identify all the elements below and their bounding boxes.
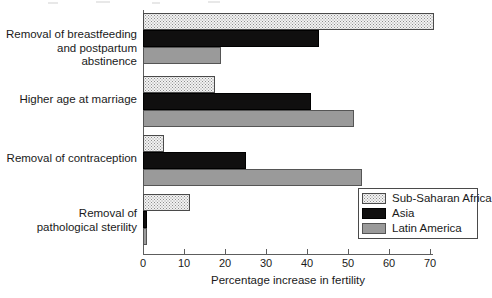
category-label-contraception: Removal of contraception — [0, 152, 137, 166]
x-tick-0 — [143, 249, 144, 255]
legend-label-latin-america: Latin America — [392, 222, 462, 235]
chart-legend: Sub-Saharan Africa Asia Latin America — [358, 188, 478, 239]
legend-item-sub-saharan-africa: Sub-Saharan Africa — [359, 191, 477, 206]
bar-age-at-marriage-asia — [143, 93, 311, 110]
bar-contraception-latin-america — [143, 169, 362, 186]
x-tick-label-60: 60 — [383, 257, 395, 269]
bar-age-at-marriage-latin-america — [143, 110, 354, 127]
legend-item-asia: Asia — [359, 206, 477, 221]
legend-swatch-icon-sub-saharan-africa — [362, 193, 386, 204]
bar-contraception-asia — [143, 152, 246, 169]
legend-swatch-icon-asia — [362, 208, 386, 219]
x-tick-60 — [389, 249, 390, 255]
x-tick-label-70: 70 — [424, 257, 436, 269]
x-tick-label-40: 40 — [301, 257, 313, 269]
x-tick-30 — [266, 249, 267, 255]
category-label-pathological-sterility: Removal of pathological sterility — [0, 207, 137, 234]
x-axis-title: Percentage increase in fertility — [143, 274, 433, 286]
bar-pathological-sterility-asia — [143, 211, 147, 228]
x-tick-label-20: 20 — [219, 257, 231, 269]
bar-pathological-sterility-sub-saharan-africa — [143, 194, 190, 211]
x-tick-label-50: 50 — [342, 257, 354, 269]
legend-swatch-icon-latin-america — [362, 223, 386, 234]
bar-breastfeeding-sub-saharan-africa — [143, 13, 434, 30]
x-tick-40 — [307, 249, 308, 255]
x-tick-10 — [184, 249, 185, 255]
legend-label-asia: Asia — [392, 207, 414, 220]
bar-contraception-sub-saharan-africa — [143, 135, 164, 152]
bar-pathological-sterility-latin-america — [143, 228, 147, 245]
scan-artifact — [48, 2, 58, 4]
x-tick-label-10: 10 — [178, 257, 190, 269]
category-label-age-at-marriage: Higher age at marriage — [0, 93, 137, 107]
bar-breastfeeding-asia — [143, 30, 319, 47]
bar-breastfeeding-latin-america — [143, 47, 221, 64]
legend-item-latin-america: Latin America — [359, 221, 477, 236]
x-tick-50 — [348, 249, 349, 255]
x-tick-20 — [225, 249, 226, 255]
x-tick-label-30: 30 — [260, 257, 272, 269]
bar-age-at-marriage-sub-saharan-africa — [143, 76, 215, 93]
x-tick-label-0: 0 — [140, 257, 146, 269]
scan-artifact — [208, 1, 220, 3]
legend-label-sub-saharan-africa: Sub-Saharan Africa — [392, 192, 492, 205]
scan-artifact — [152, 2, 160, 4]
scan-artifact — [96, 1, 110, 3]
category-label-breastfeeding: Removal of breastfeeding and postpartum … — [0, 28, 137, 69]
x-tick-70 — [430, 249, 431, 255]
